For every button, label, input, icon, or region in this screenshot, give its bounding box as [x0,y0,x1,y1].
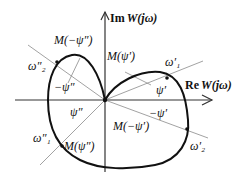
origin-point [103,98,107,102]
imag-axis-label: ImW(jω) [110,11,157,25]
label-neg-psi-prime: −ψ′ [149,106,168,120]
label-w1-dprime: ω″₁ [33,131,51,145]
label-psi-prime: ψ′ [156,83,166,97]
real-axis-label: ReW(jω) [185,78,232,92]
label-m-neg-psi-prime: M(−ψ′) [112,119,149,133]
label-m-psi-dprime: M(ψ″) [63,139,94,153]
label-psi-dprime: ψ″ [70,105,83,119]
label-w2-dprime: ω″₂ [28,59,46,73]
point-w1-prime [165,76,169,80]
diagram-canvas: ImW(jω) ReW(jω) ω″₂ ω″₁ ω′₁ ω′₂ −ψ″ ψ″ ψ… [0,0,248,195]
curve-points [55,60,189,148]
label-neg-psi-dprime: −ψ″ [54,80,76,94]
point-w2-dprime [55,60,59,64]
label-m-psi-prime: M(ψ′) [106,49,135,63]
label-w1-prime: ω′₁ [165,55,180,69]
point-w2-prime [185,127,189,131]
label-w2-prime: ω′₂ [190,139,205,153]
label-m-neg-psi-dprime: M(−ψ″) [53,33,93,47]
angle-rays [28,45,208,165]
